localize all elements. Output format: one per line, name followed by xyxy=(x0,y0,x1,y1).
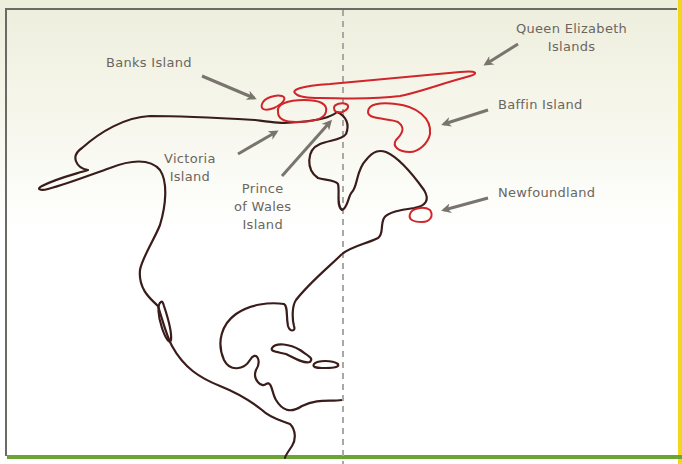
baja-peninsula xyxy=(158,302,171,342)
cuba-island xyxy=(272,344,312,362)
diagram-page: Banks Island Victoria Island Prince of W… xyxy=(0,0,682,464)
gulf-coast-outline xyxy=(220,254,342,410)
label-text: Island xyxy=(234,216,291,234)
label-text: Queen Elizabeth xyxy=(516,20,627,38)
hudson-bay-outline xyxy=(309,112,427,254)
newfoundland-shape xyxy=(410,208,432,222)
queen-elizabeth-arrow xyxy=(486,44,518,64)
label-victoria-island: Victoria Island xyxy=(164,150,216,186)
label-text: Prince xyxy=(234,180,291,198)
label-newfoundland: Newfoundland xyxy=(498,184,595,202)
north-america-map xyxy=(0,0,682,464)
prince-of-wales-island-shape xyxy=(334,103,348,112)
queen-elizabeth-islands-shape xyxy=(294,71,475,98)
label-prince-of-wales-island: Prince of Wales Island xyxy=(234,180,291,234)
label-text: Victoria xyxy=(164,150,216,168)
label-text: of Wales xyxy=(234,198,291,216)
label-text: Island xyxy=(164,168,216,186)
victoria-island-shape xyxy=(278,100,327,122)
label-banks-island: Banks Island xyxy=(106,54,192,72)
label-text: Banks Island xyxy=(106,55,192,70)
newfoundland-arrow xyxy=(444,198,488,210)
banks-island-shape xyxy=(262,95,285,109)
baffin-arrow xyxy=(444,110,488,124)
baffin-island-shape xyxy=(368,103,430,152)
label-text: Newfoundland xyxy=(498,185,595,200)
victoria-arrow xyxy=(238,132,276,154)
label-text: Baffin Island xyxy=(498,97,583,112)
hispaniola-island xyxy=(313,361,338,368)
label-text: Islands xyxy=(516,38,627,56)
label-queen-elizabeth-islands: Queen Elizabeth Islands xyxy=(516,20,627,56)
banks-arrow xyxy=(202,76,254,98)
prince-of-wales-arrow xyxy=(282,122,330,176)
label-baffin-island: Baffin Island xyxy=(498,96,583,114)
